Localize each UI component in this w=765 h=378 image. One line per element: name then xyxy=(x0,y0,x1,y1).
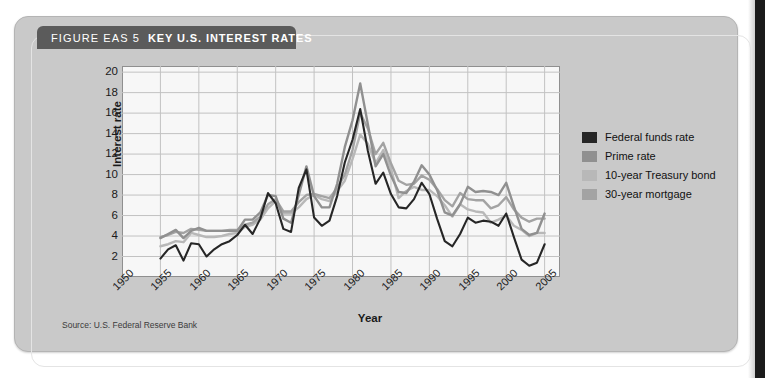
legend-item: 30-year mortgage xyxy=(582,188,716,200)
page-title: FIGURE EAS 5 KEY U.S. INTEREST RATES xyxy=(37,32,312,44)
legend-label: 30-year mortgage xyxy=(605,188,692,200)
legend-item: Federal funds rate xyxy=(582,131,716,143)
figure-title-bar: FIGURE EAS 5 KEY U.S. INTEREST RATES xyxy=(37,26,296,49)
x-axis-label: Year xyxy=(300,312,440,324)
figure-title: KEY U.S. INTEREST RATES xyxy=(148,32,313,44)
legend-swatch-icon xyxy=(582,170,597,181)
legend-swatch-icon xyxy=(582,189,597,200)
legend-swatch-icon xyxy=(582,132,597,143)
y-tick-label: 20 xyxy=(92,65,118,77)
legend-item: Prime rate xyxy=(582,150,716,162)
y-tick-label: 4 xyxy=(92,229,118,241)
legend-label: Federal funds rate xyxy=(605,131,694,143)
y-tick-label: 14 xyxy=(92,127,118,139)
legend-label: 10-year Treasury bond xyxy=(605,169,716,181)
figure-page: FIGURE EAS 5 KEY U.S. INTEREST RATES Int… xyxy=(0,0,765,378)
page-edge xyxy=(755,0,765,378)
legend-label: Prime rate xyxy=(605,150,656,162)
y-tick-label: 10 xyxy=(92,168,118,180)
y-tick-label: 8 xyxy=(92,188,118,200)
plot-area xyxy=(122,66,560,277)
y-tick-label: 6 xyxy=(92,209,118,221)
legend-item: 10-year Treasury bond xyxy=(582,169,716,181)
chart-canvas xyxy=(122,66,560,277)
y-tick-label: 2 xyxy=(92,250,118,262)
source-note: Source: U.S. Federal Reserve Bank xyxy=(62,320,197,330)
y-tick-label: 18 xyxy=(92,86,118,98)
figure-number: FIGURE EAS 5 xyxy=(51,32,140,44)
y-tick-label: 16 xyxy=(92,106,118,118)
page-edge-shadow xyxy=(748,0,755,378)
chart-legend: Federal funds ratePrime rate10-year Trea… xyxy=(582,131,716,207)
legend-swatch-icon xyxy=(582,151,597,162)
y-tick-label: 12 xyxy=(92,147,118,159)
